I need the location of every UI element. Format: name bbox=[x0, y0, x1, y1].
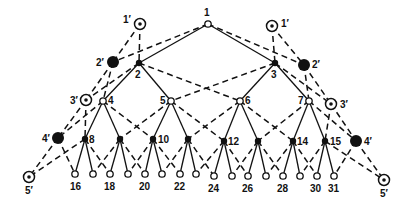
solid-edge bbox=[248, 141, 258, 176]
filled-dot-icon bbox=[255, 138, 261, 144]
open-circle-icon bbox=[245, 173, 251, 179]
target-center-dot bbox=[27, 175, 31, 179]
node-label: 22 bbox=[174, 181, 186, 192]
open-circle-icon bbox=[211, 173, 217, 179]
solid-edge bbox=[139, 24, 208, 63]
solid-edges bbox=[75, 24, 334, 176]
filled-large-circle-icon bbox=[107, 56, 119, 68]
dashed-edge bbox=[272, 26, 304, 65]
dashed-edge bbox=[58, 101, 103, 138]
node-5pR bbox=[379, 175, 390, 186]
filled-large-circle-icon bbox=[298, 59, 310, 71]
solid-edge bbox=[224, 101, 240, 141]
open-circle-icon bbox=[306, 98, 312, 104]
node-label: 5′ bbox=[25, 185, 34, 196]
node-label: 26 bbox=[242, 183, 254, 194]
node-4pR bbox=[350, 135, 362, 147]
open-circle-icon bbox=[90, 171, 96, 177]
node-14 bbox=[290, 138, 296, 144]
solid-edge bbox=[139, 63, 171, 101]
node-4 bbox=[100, 98, 106, 104]
node-1pL bbox=[135, 19, 146, 30]
dashed-edge bbox=[113, 24, 140, 62]
node-3pL bbox=[81, 95, 92, 106]
node-4pL bbox=[52, 132, 64, 144]
filled-dot-icon bbox=[221, 138, 227, 144]
target-center-dot bbox=[270, 24, 274, 28]
node-5 bbox=[168, 98, 174, 104]
open-circle-icon bbox=[125, 171, 131, 177]
node-26 bbox=[245, 173, 251, 179]
node-8 bbox=[82, 136, 88, 142]
solid-edge bbox=[145, 139, 153, 174]
solid-edge bbox=[283, 141, 293, 176]
solid-edge bbox=[110, 139, 120, 174]
node-label: 5′ bbox=[380, 188, 389, 199]
node-19 bbox=[125, 171, 131, 177]
open-circle-icon bbox=[107, 171, 113, 177]
node-17 bbox=[90, 171, 96, 177]
node-2pL bbox=[107, 56, 119, 68]
node-label: 3′ bbox=[70, 95, 79, 106]
node-12 bbox=[221, 138, 227, 144]
node-29 bbox=[297, 173, 303, 179]
node-7 bbox=[306, 98, 312, 104]
node-2 bbox=[136, 60, 142, 66]
node-label: 2 bbox=[135, 69, 141, 80]
target-center-dot bbox=[329, 102, 333, 106]
open-circle-icon bbox=[100, 98, 106, 104]
solid-edge bbox=[75, 139, 85, 174]
open-circle-icon bbox=[237, 98, 243, 104]
target-center-dot bbox=[382, 178, 386, 182]
node-label: 1′ bbox=[123, 14, 132, 25]
node-16 bbox=[72, 171, 78, 177]
node-label: 10 bbox=[158, 134, 170, 145]
filled-dot-icon bbox=[150, 136, 156, 142]
node-label: 4′ bbox=[364, 136, 373, 147]
open-circle-icon bbox=[229, 173, 235, 179]
node-label: 18 bbox=[104, 181, 116, 192]
node-label: 3′ bbox=[340, 99, 349, 110]
filled-dot-icon bbox=[117, 136, 123, 142]
open-circle-icon bbox=[177, 171, 183, 177]
node-label: 4′ bbox=[42, 133, 51, 144]
node-28 bbox=[280, 173, 286, 179]
node-label: 7 bbox=[298, 95, 304, 106]
open-circle-icon bbox=[142, 171, 148, 177]
filled-dot-icon bbox=[185, 136, 191, 142]
open-circle-icon bbox=[72, 171, 78, 177]
node-23 bbox=[193, 171, 199, 177]
open-circle-icon bbox=[193, 171, 199, 177]
open-circle-icon bbox=[314, 173, 320, 179]
node-label: 8 bbox=[89, 134, 95, 145]
node-10 bbox=[150, 136, 156, 142]
node-11 bbox=[185, 136, 191, 142]
node-15 bbox=[322, 138, 328, 144]
node-21 bbox=[159, 171, 165, 177]
node-9 bbox=[117, 136, 123, 142]
node-label: 28 bbox=[277, 183, 289, 194]
node-label: 5 bbox=[160, 95, 166, 106]
node-label: 6 bbox=[245, 95, 251, 106]
dashed-edge bbox=[171, 63, 275, 101]
solid-edge bbox=[188, 139, 196, 174]
node-1 bbox=[205, 21, 211, 27]
node-label: 1 bbox=[204, 7, 210, 18]
node-label: 15 bbox=[330, 136, 342, 147]
dashed-edge bbox=[171, 101, 224, 141]
filled-dot-icon bbox=[290, 138, 296, 144]
dashed-edge bbox=[208, 24, 304, 65]
filled-dot-icon bbox=[82, 136, 88, 142]
solid-edge bbox=[258, 141, 266, 176]
filled-large-circle-icon bbox=[350, 135, 362, 147]
node-24 bbox=[211, 173, 217, 179]
open-circle-icon bbox=[263, 173, 269, 179]
node-25 bbox=[229, 173, 235, 179]
filled-dot-icon bbox=[136, 60, 142, 66]
open-circle-icon bbox=[280, 173, 286, 179]
node-label: 31 bbox=[328, 183, 340, 194]
solid-edge bbox=[293, 101, 309, 141]
solid-edge bbox=[309, 101, 325, 141]
node-6 bbox=[237, 98, 243, 104]
filled-dot-icon bbox=[272, 60, 278, 66]
